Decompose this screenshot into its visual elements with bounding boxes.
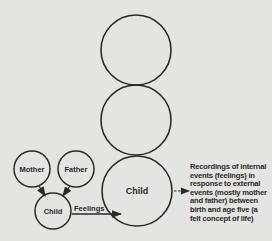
mother-label: Mother — [20, 165, 45, 174]
child-big-label: Child — [126, 186, 149, 196]
description-line: felt concept of life) — [190, 215, 272, 224]
father-to-child-arrow — [63, 186, 70, 196]
father-label: Father — [65, 165, 88, 174]
feelings-label: Feelings — [74, 204, 104, 213]
child-small-label: Child — [44, 207, 63, 216]
recordings-description: Recordings of internal events (feelings)… — [190, 163, 272, 223]
middle-circle — [101, 85, 171, 155]
top-circle — [101, 15, 171, 85]
mother-to-child-arrow — [39, 186, 45, 196]
